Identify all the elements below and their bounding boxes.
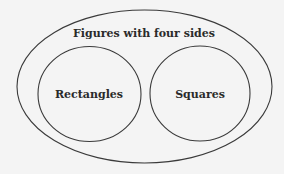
venn-diagram: Figures with four sides Rectangles Squar… [0,0,284,174]
rectangles-set-label: Rectangles [55,88,123,101]
outer-set-label: Figures with four sides [73,27,215,40]
squares-set-label: Squares [175,88,225,101]
